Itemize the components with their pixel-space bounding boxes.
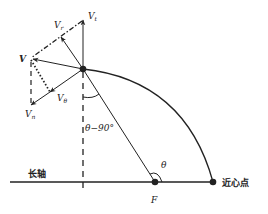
body-point [80, 66, 87, 73]
perihelion-point [210, 179, 217, 186]
angle-arc-theta-minus-90 [83, 94, 99, 98]
v-arrow [33, 59, 83, 69]
focus-point [152, 179, 159, 186]
theta-label: θ [161, 160, 167, 170]
vn-arrow [31, 92, 50, 105]
vt-label: Vt [88, 11, 98, 22]
vn-label: Vn [25, 109, 36, 120]
vr-label: Vr [54, 20, 65, 31]
orbit-velocity-diagram: Vt Vr V Vθ Vn θ−90° θ F 长轴 近心点 [0, 0, 268, 214]
vtheta-arrow [50, 69, 83, 92]
parallelogram-dotted-line [31, 60, 50, 92]
diagram-canvas: Vt Vr V Vθ Vn θ−90° θ F 长轴 近心点 [0, 0, 268, 214]
focus-label: F [150, 195, 158, 205]
major-axis-label: 长轴 [28, 168, 46, 179]
angle-theta-minus-90-label: θ−90° [85, 123, 114, 133]
v-label: V [19, 54, 27, 64]
perihelion-label: 近心点 [222, 177, 249, 188]
vtheta-label: Vθ [57, 93, 68, 104]
vr-arrow [61, 37, 83, 69]
